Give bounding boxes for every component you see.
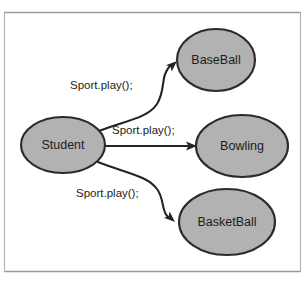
diagram-svg: Sport.play(); Sport.play(); Sport.play()… bbox=[0, 0, 305, 283]
edge-student-to-bowling: Sport.play(); bbox=[104, 124, 197, 150]
node-label-baseball: BaseBall bbox=[191, 53, 240, 67]
node-label-student: Student bbox=[41, 138, 85, 152]
edge-label-baseball: Sport.play(); bbox=[70, 79, 133, 91]
node-student[interactable]: Student bbox=[21, 117, 105, 173]
node-bowling[interactable]: Bowling bbox=[196, 115, 288, 177]
node-label-bowling: Bowling bbox=[220, 139, 264, 153]
diagram-canvas: Sport.play(); Sport.play(); Sport.play()… bbox=[0, 0, 305, 283]
edge-label-bowling: Sport.play(); bbox=[112, 124, 175, 136]
edge-path-baseball bbox=[99, 66, 170, 131]
edge-student-to-baseball: Sport.play(); bbox=[70, 58, 180, 131]
edge-label-basketball: Sport.play(); bbox=[76, 187, 139, 199]
node-basketball[interactable]: BasketBall bbox=[179, 189, 275, 255]
edge-student-to-basketball: Sport.play(); bbox=[76, 162, 178, 225]
node-label-basketball: BasketBall bbox=[197, 215, 256, 229]
node-baseball[interactable]: BaseBall bbox=[177, 29, 255, 91]
